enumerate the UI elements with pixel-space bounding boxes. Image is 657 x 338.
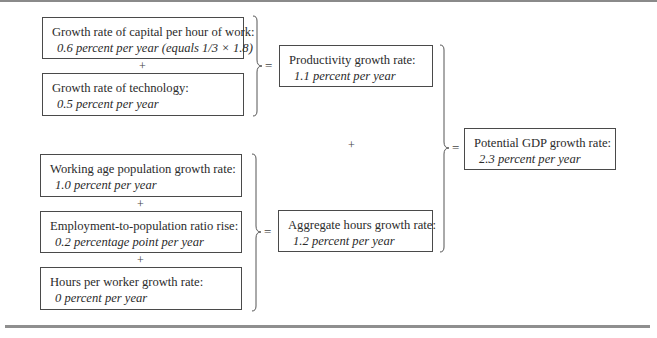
box-value: 0 percent per year (50, 290, 233, 306)
box-title: Aggregate hours growth rate: (288, 217, 424, 233)
box-value: 1.1 percent per year (289, 68, 424, 84)
bottom-rule (5, 325, 650, 328)
right-brace-icon (439, 44, 451, 254)
potential-gdp-growth-box: Potential GDP growth rate: 2.3 percent p… (464, 128, 616, 170)
equals-sign: = (265, 60, 272, 72)
box-value: 0.5 percent per year (52, 96, 235, 112)
plus-sign: + (137, 198, 144, 210)
plus-sign: + (348, 139, 355, 151)
employment-ratio-box: Employment-to-population ratio rise: 0.2… (40, 211, 242, 253)
working-age-population-box: Working age population growth rate: 1.0 … (40, 154, 242, 197)
productivity-growth-box: Productivity growth rate: 1.1 percent pe… (279, 45, 433, 87)
hours-per-worker-box: Hours per worker growth rate: 0 percent … (40, 267, 242, 310)
technology-growth-box: Growth rate of technology: 0.5 percent p… (42, 73, 244, 116)
aggregate-hours-growth-box: Aggregate hours growth rate: 1.2 percent… (278, 210, 433, 252)
box-title: Productivity growth rate: (289, 52, 424, 68)
box-title: Growth rate of capital per hour of work: (52, 24, 235, 40)
plus-sign: + (139, 60, 146, 72)
capital-growth-box: Growth rate of capital per hour of work:… (42, 17, 244, 59)
box-value: 1.2 percent per year (288, 233, 424, 249)
box-title: Employment-to-population ratio rise: (50, 218, 233, 234)
box-title: Growth rate of technology: (52, 80, 235, 96)
box-title: Potential GDP growth rate: (474, 135, 607, 151)
right-brace-icon (251, 153, 263, 312)
top-rule (0, 0, 657, 2)
plus-sign: + (137, 254, 144, 266)
right-brace-icon (252, 15, 264, 117)
equals-sign: = (264, 226, 271, 238)
box-value: 1.0 percent per year (50, 177, 233, 193)
box-value: 2.3 percent per year (474, 151, 607, 167)
box-value: 0.6 percent per year (equals 1/3 × 1.8) (52, 40, 235, 56)
equals-sign: = (452, 142, 459, 154)
box-title: Working age population growth rate: (50, 161, 233, 177)
box-title: Hours per worker growth rate: (50, 274, 233, 290)
box-value: 0.2 percentage point per year (50, 234, 233, 250)
